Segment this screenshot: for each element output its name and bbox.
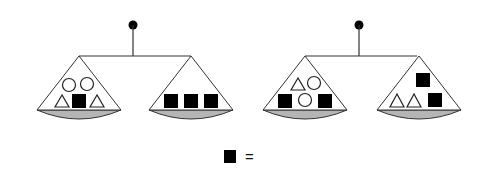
circle-icon xyxy=(63,79,76,92)
bowl-icon xyxy=(377,110,461,119)
scale-1-left-pan xyxy=(37,56,121,119)
square-icon xyxy=(164,94,178,108)
square-icon xyxy=(428,93,442,107)
bowl-icon xyxy=(263,110,347,119)
bowl-icon xyxy=(149,110,233,119)
scale-1-right-pan xyxy=(149,56,233,119)
scale-2-left-pan xyxy=(263,56,347,119)
square-icon xyxy=(204,94,218,108)
puzzle-canvas xyxy=(0,0,483,172)
circle-icon xyxy=(81,78,94,91)
scale-1 xyxy=(37,21,233,120)
square-icon xyxy=(184,94,198,108)
square-icon xyxy=(278,94,292,108)
question-square-icon xyxy=(224,150,236,163)
circle-icon xyxy=(308,77,321,90)
square-icon xyxy=(416,73,430,87)
scale-2 xyxy=(263,21,461,120)
balance-puzzle: = xyxy=(0,0,483,172)
bowl-icon xyxy=(37,110,121,119)
circle-icon xyxy=(299,94,312,107)
square-icon xyxy=(318,94,332,108)
square-icon xyxy=(72,94,86,108)
equals-sign: = xyxy=(245,148,254,165)
scale-2-right-pan xyxy=(377,56,461,119)
